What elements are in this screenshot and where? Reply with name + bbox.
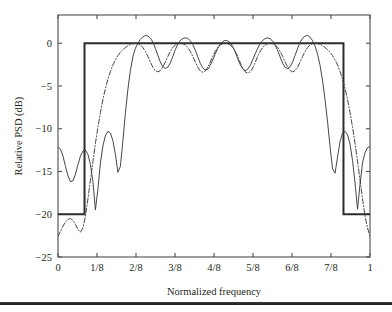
y-tick-label: −15 — [36, 166, 52, 177]
y-axis-title: Relative PSD (dB) — [13, 96, 25, 175]
x-tick-label: 1/8 — [90, 262, 103, 273]
y-tick-label: −10 — [36, 123, 52, 134]
x-axis-tick-labels: 01/82/83/84/85/86/87/81 — [55, 262, 372, 273]
x-tick-label: 3/8 — [168, 262, 181, 273]
psd-figure: 01/82/83/84/85/86/87/81 0−5−10−15−20−25 … — [0, 0, 392, 312]
y-axis-ticks — [58, 43, 370, 257]
x-tick-label: 2/8 — [129, 262, 142, 273]
y-tick-label: 0 — [47, 38, 52, 49]
x-tick-label: 4/8 — [207, 262, 220, 273]
x-tick-label: 5/8 — [246, 262, 259, 273]
x-tick-label: 1 — [367, 262, 372, 273]
data-series-layer — [58, 36, 370, 237]
y-tick-label: −20 — [36, 209, 52, 220]
footer-rule — [0, 302, 392, 305]
psd-chart-svg: 01/82/83/84/85/86/87/81 0−5−10−15−20−25 … — [0, 0, 392, 312]
x-tick-label: 7/8 — [324, 262, 337, 273]
y-tick-label: −25 — [36, 252, 52, 263]
x-axis-ticks — [58, 15, 370, 257]
y-tick-label: −5 — [41, 81, 52, 92]
x-tick-label: 0 — [55, 262, 60, 273]
series-psd-solid — [58, 36, 370, 210]
series-spectral-mask — [58, 43, 370, 214]
axes-frame — [58, 15, 370, 257]
y-axis-tick-labels: 0−5−10−15−20−25 — [36, 38, 52, 263]
x-axis-title: Normalized frequency — [167, 286, 262, 297]
x-tick-label: 6/8 — [285, 262, 298, 273]
